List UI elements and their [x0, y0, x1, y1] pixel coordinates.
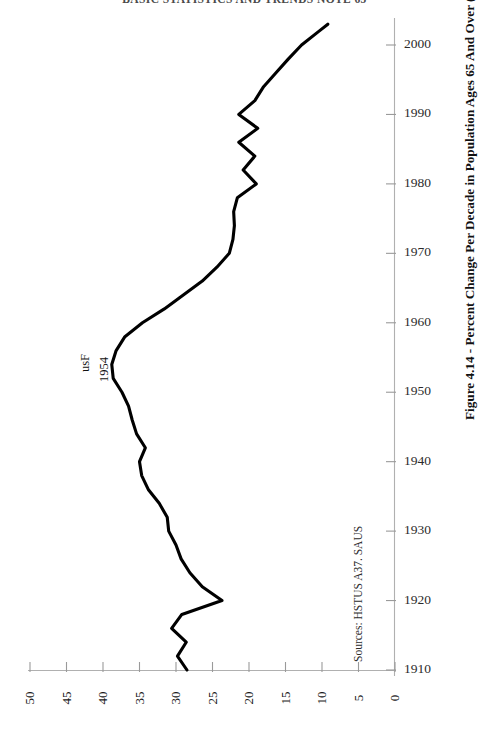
y-axis-tick-label: 1930 — [404, 522, 431, 538]
x-axis-tick-label: 25 — [205, 683, 221, 713]
y-axis-tick-label: 1910 — [404, 661, 431, 677]
figure-caption: Figure 4.14 - Percent Change Per Decade … — [462, 0, 478, 420]
y-axis-tick-label: 1990 — [404, 105, 431, 121]
x-axis-tick-label: 5 — [351, 683, 367, 713]
x-axis-tick-label: 50 — [22, 683, 38, 713]
sources-note: Sources: HSTUS A37. SAUS — [352, 526, 364, 662]
y-axis-tick-label: 1960 — [404, 314, 431, 330]
y-axis-tick-label: 1980 — [404, 175, 431, 191]
data-series-line — [112, 24, 328, 670]
y-axis-tick-label: 1970 — [404, 244, 431, 260]
x-axis-tick-label: 15 — [278, 683, 294, 713]
y-axis-tick-label: 1920 — [404, 592, 431, 608]
x-axis-tick-label: 35 — [132, 683, 148, 713]
x-axis-tick-label: 10 — [314, 683, 330, 713]
y-axis-tick-label: 1940 — [404, 453, 431, 469]
annotation-series-year: 1954 — [97, 357, 112, 382]
y-axis-tick-label: 1950 — [404, 383, 431, 399]
y-axis-tick-label: 2000 — [404, 36, 431, 52]
x-axis-tick-label: 30 — [168, 683, 184, 713]
x-axis-tick-label: 20 — [241, 683, 257, 713]
x-axis-tick-label: 40 — [95, 683, 111, 713]
annotation-series-label: usF — [78, 354, 93, 372]
x-axis-tick-label: 45 — [59, 683, 75, 713]
x-axis-tick-label: 0 — [387, 683, 403, 713]
